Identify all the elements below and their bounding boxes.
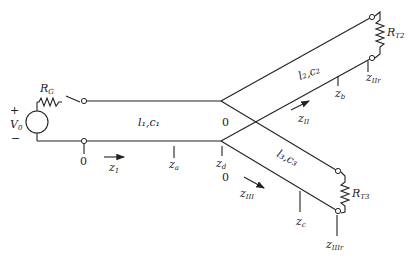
rt3-resistor — [341, 172, 349, 213]
svg-text:zIIr: zIIr — [365, 71, 381, 85]
line-3: RT3 l₃,c₃ zc zIIIr zIII 0 — [221, 101, 370, 252]
rg-label: RG — [39, 82, 54, 96]
svg-text:zb: zb — [334, 87, 346, 101]
svg-text:RT3: RT3 — [351, 187, 370, 201]
line1-params: l₁,c₁ — [138, 116, 160, 129]
svg-text:zII: zII — [297, 112, 310, 126]
line-1: 0 z1 l₁,c₁ za zd — [37, 98, 227, 175]
svg-text:zIIIr: zIIIr — [325, 238, 344, 252]
z1-label: z1 — [108, 161, 119, 175]
svg-text:0: 0 — [80, 155, 87, 168]
line-2: RT2 l₂,c₂ zb zIIr zII 0 — [221, 12, 405, 141]
line2-params: l₂,c₂ — [297, 63, 322, 83]
terminal-icon — [335, 168, 340, 173]
arrow-icon — [244, 177, 264, 188]
rt2-resistor — [375, 12, 384, 58]
transmission-line-diagram: + V0 − RG 0 z1 l₁,c₁ za zd RT2 l₂,c₂ zb — [0, 0, 418, 267]
svg-text:zIII: zIII — [239, 187, 254, 201]
switch-icon — [66, 96, 80, 102]
source-label: V0 — [10, 118, 23, 132]
svg-text:RT2: RT2 — [386, 26, 405, 40]
svg-text:zd: zd — [215, 157, 227, 171]
source-minus: − — [11, 132, 20, 145]
terminal-icon — [369, 55, 374, 60]
terminal-icon — [369, 14, 374, 19]
terminal-icon — [81, 98, 86, 103]
source-plus: + — [10, 104, 19, 117]
svg-text:0: 0 — [222, 116, 229, 129]
svg-text:0: 0 — [222, 171, 229, 184]
terminal-icon — [335, 208, 340, 213]
generator-resistor: RG — [37, 82, 80, 106]
line3-params: l₃,c₃ — [275, 147, 301, 169]
svg-text:za: za — [168, 158, 179, 172]
svg-text:zc: zc — [295, 215, 306, 229]
arrow-icon — [291, 101, 309, 110]
terminal-icon — [81, 138, 86, 143]
voltage-source: + V0 − — [10, 102, 48, 145]
